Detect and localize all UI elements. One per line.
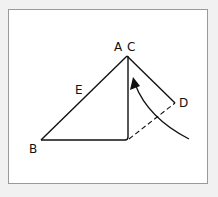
label-d: D <box>179 96 188 110</box>
triangle-fold-diagram: A C E B D <box>0 0 218 197</box>
label-e: E <box>75 83 83 97</box>
rotation-arrow-curve <box>135 84 189 139</box>
arrowhead-icon <box>130 77 140 90</box>
label-a: A <box>114 40 123 54</box>
edge-ab <box>41 56 127 140</box>
label-b: B <box>29 142 37 156</box>
label-c: C <box>127 40 135 54</box>
dashed-fold-line <box>129 103 175 139</box>
